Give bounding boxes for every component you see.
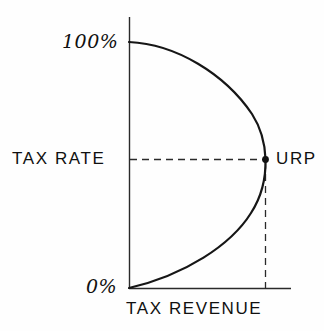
y-axis-max-label: 100% — [62, 32, 118, 51]
urp-point-marker — [262, 156, 269, 163]
y-axis-title: TAX RATE — [12, 150, 105, 167]
laffer-curve — [129, 42, 266, 288]
urp-point-label: URP — [276, 150, 317, 167]
x-axis-title: TAX REVENUE — [126, 300, 262, 317]
laffer-curve-figure: 100% 0% TAX RATE TAX REVENUE URP — [0, 0, 324, 331]
y-axis-min-label: 0% — [86, 277, 117, 296]
